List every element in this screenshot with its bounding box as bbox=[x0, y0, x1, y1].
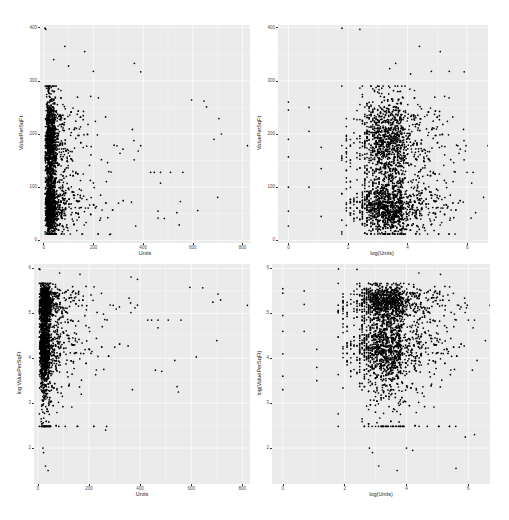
x-tick-label: 600 bbox=[181, 486, 201, 491]
y-tick-mark bbox=[38, 240, 40, 241]
x-tick-label: 0 bbox=[273, 486, 293, 491]
y-tick-label: 100 bbox=[17, 184, 37, 189]
y-tick-label: 0 bbox=[17, 237, 37, 242]
x-tick-label: 400 bbox=[133, 245, 153, 250]
x-tick-label: 4 bbox=[397, 486, 417, 491]
x-tick-label: 0 bbox=[278, 245, 298, 250]
y-tick-mark bbox=[270, 358, 272, 359]
y-tick-label: 5 bbox=[11, 310, 31, 315]
x-tick-label: 4 bbox=[398, 245, 418, 250]
y-tick-mark bbox=[270, 403, 272, 404]
y-tick-label: 100 bbox=[255, 184, 275, 189]
y-tick-mark bbox=[32, 403, 34, 404]
x-tick-label: 200 bbox=[79, 486, 99, 491]
y-tick-label: 200 bbox=[255, 131, 275, 136]
plot-area bbox=[272, 264, 490, 484]
y-tick-mark bbox=[276, 134, 278, 135]
x-axis-label: Units bbox=[102, 491, 182, 497]
y-tick-mark bbox=[270, 448, 272, 449]
x-tick-label: 200 bbox=[83, 245, 103, 250]
y-tick-label: 4 bbox=[11, 355, 31, 360]
y-tick-mark bbox=[276, 81, 278, 82]
scatter-logunits-vs-logvaluepersqft: log(ValuePerSqFt) log(Units) 024623456 bbox=[255, 260, 509, 520]
y-tick-mark bbox=[32, 268, 34, 269]
scatter-points bbox=[272, 264, 490, 484]
scatter-points bbox=[40, 25, 250, 243]
y-tick-label: 6 bbox=[11, 265, 31, 270]
y-tick-mark bbox=[276, 187, 278, 188]
y-tick-label: 300 bbox=[17, 78, 37, 83]
y-tick-label: 5 bbox=[249, 310, 269, 315]
y-tick-label: 2 bbox=[11, 445, 31, 450]
y-tick-label: 300 bbox=[255, 78, 275, 83]
y-tick-mark bbox=[276, 27, 278, 28]
y-tick-mark bbox=[38, 81, 40, 82]
x-tick-label: 6 bbox=[457, 245, 477, 250]
y-tick-mark bbox=[32, 448, 34, 449]
plot-area bbox=[278, 25, 488, 243]
y-tick-label: 200 bbox=[17, 131, 37, 136]
x-axis-label: Units bbox=[105, 250, 185, 256]
scatter-points bbox=[34, 264, 250, 484]
x-tick-label: 800 bbox=[232, 486, 252, 491]
scatter-logunits-vs-valuepersqft: ValuePerSqFt log(Units) 0246010020030040… bbox=[255, 0, 509, 260]
x-tick-label: 400 bbox=[130, 486, 150, 491]
y-tick-label: 400 bbox=[255, 25, 275, 30]
plot-area bbox=[34, 264, 250, 484]
y-tick-label: 400 bbox=[17, 25, 37, 30]
x-tick-label: 800 bbox=[233, 245, 253, 250]
scatter-points bbox=[278, 25, 488, 243]
x-tick-label: 0 bbox=[28, 486, 48, 491]
y-tick-mark bbox=[32, 313, 34, 314]
x-tick-label: 0 bbox=[34, 245, 54, 250]
x-tick-label: 6 bbox=[458, 486, 478, 491]
y-tick-mark bbox=[38, 187, 40, 188]
y-tick-label: 4 bbox=[249, 355, 269, 360]
y-tick-mark bbox=[276, 240, 278, 241]
y-tick-mark bbox=[32, 358, 34, 359]
x-axis-label: log(Units) bbox=[341, 491, 421, 497]
plot-area bbox=[40, 25, 250, 243]
x-tick-label: 600 bbox=[183, 245, 203, 250]
y-tick-label: 3 bbox=[11, 400, 31, 405]
x-tick-label: 2 bbox=[338, 245, 358, 250]
y-tick-mark bbox=[38, 27, 40, 28]
y-tick-label: 3 bbox=[249, 400, 269, 405]
scatter-units-vs-logvaluepersqft: log ValuePerSqFt Units 02004006008002345… bbox=[0, 260, 255, 520]
y-tick-mark bbox=[270, 268, 272, 269]
y-tick-label: 2 bbox=[249, 445, 269, 450]
y-tick-label: 0 bbox=[255, 237, 275, 242]
x-axis-label: log(Units) bbox=[342, 250, 422, 256]
y-tick-label: 6 bbox=[249, 265, 269, 270]
scatter-units-vs-valuepersqft: ValuePerSqFt Units 020040060080001002003… bbox=[0, 0, 255, 260]
y-tick-mark bbox=[38, 134, 40, 135]
y-tick-mark bbox=[270, 313, 272, 314]
x-tick-label: 2 bbox=[335, 486, 355, 491]
